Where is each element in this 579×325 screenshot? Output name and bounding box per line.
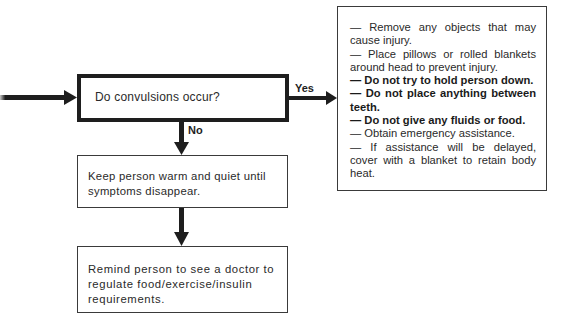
action-item: — Remove any objects that may cause inju… xyxy=(350,21,536,48)
action-item: — If assistance will be delayed, cover w… xyxy=(350,141,536,181)
no-branch-label: No xyxy=(188,124,203,136)
action-item: — Obtain emergency assistance. xyxy=(350,127,536,140)
convulsion-actions-box: — Remove any objects that may cause inju… xyxy=(337,6,547,191)
decision-text: Do convulsions occur? xyxy=(95,90,220,104)
action-item: — Place pillows or rolled blankets aroun… xyxy=(350,48,536,75)
action-item-warning: — Do not place anything between teeth. xyxy=(350,87,536,114)
entry-arrow xyxy=(0,90,77,105)
decision-box-convulsions: Do convulsions occur? xyxy=(77,74,289,122)
action-item-warning: — Do not try to hold person down. xyxy=(350,74,536,87)
yes-branch-label: Yes xyxy=(295,82,314,94)
step-see-doctor: Remind person to see a doctor to regulat… xyxy=(77,246,288,313)
step-text: Remind person to see a doctor to regulat… xyxy=(88,262,279,307)
step-keep-warm: Keep person warm and quiet until symptom… xyxy=(77,155,288,208)
step-text: Keep person warm and quiet until symptom… xyxy=(88,169,279,199)
no-arrow xyxy=(174,122,189,155)
action-list: — Remove any objects that may cause inju… xyxy=(350,21,536,181)
step-arrow xyxy=(174,208,189,246)
action-item-warning: — Do not give any fluids or food. xyxy=(350,114,536,127)
